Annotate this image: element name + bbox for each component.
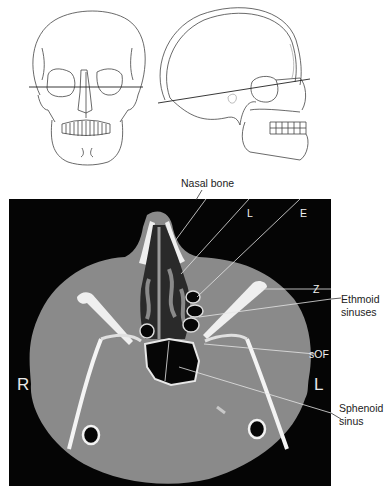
skull-lateral-view <box>158 8 310 160</box>
label-Z: Z <box>313 283 319 295</box>
label-L: L <box>247 207 253 219</box>
ct-scan-svg <box>9 199 331 486</box>
orientation-right-side: R <box>17 375 29 395</box>
nasal-bone-leader <box>190 190 210 202</box>
label-E: E <box>300 207 307 219</box>
skull-diagrams-svg <box>0 0 389 170</box>
label-nasal-bone: Nasal bone <box>181 177 234 189</box>
ct-axial-scan: R L L E Z sOF <box>9 199 331 486</box>
skull-frontal-view <box>29 11 145 165</box>
label-sphenoid-sinus-line1: Sphenoid <box>339 402 383 414</box>
external-leader-lines <box>331 285 343 425</box>
label-ethmoid-sinuses-line2: sinuses <box>341 306 377 318</box>
label-ethmoid-sinuses-line1: Ethmoid <box>341 293 380 305</box>
skull-diagram-panel <box>0 0 389 170</box>
orientation-left-side: L <box>314 375 323 395</box>
label-sOF: sOF <box>309 348 329 360</box>
